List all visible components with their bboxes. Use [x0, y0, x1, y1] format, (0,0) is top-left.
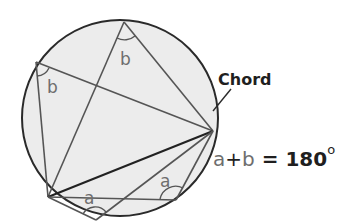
formula-a: a [213, 147, 225, 171]
formula: a+b = 180o [213, 146, 335, 171]
formula-value: 180 [285, 147, 327, 171]
angle-label-top: b [120, 49, 131, 69]
angle-label-bottom-right: a [160, 171, 170, 191]
cyclic-diagram: b b a a Chord [0, 0, 356, 224]
formula-equals: = [255, 147, 286, 171]
angle-label-bottom-left: a [84, 188, 94, 208]
angle-label-left: b [47, 77, 58, 97]
chord-label: Chord [218, 70, 271, 89]
degree-symbol: o [327, 142, 335, 157]
formula-b: b [242, 147, 255, 171]
formula-plus: + [225, 147, 242, 171]
